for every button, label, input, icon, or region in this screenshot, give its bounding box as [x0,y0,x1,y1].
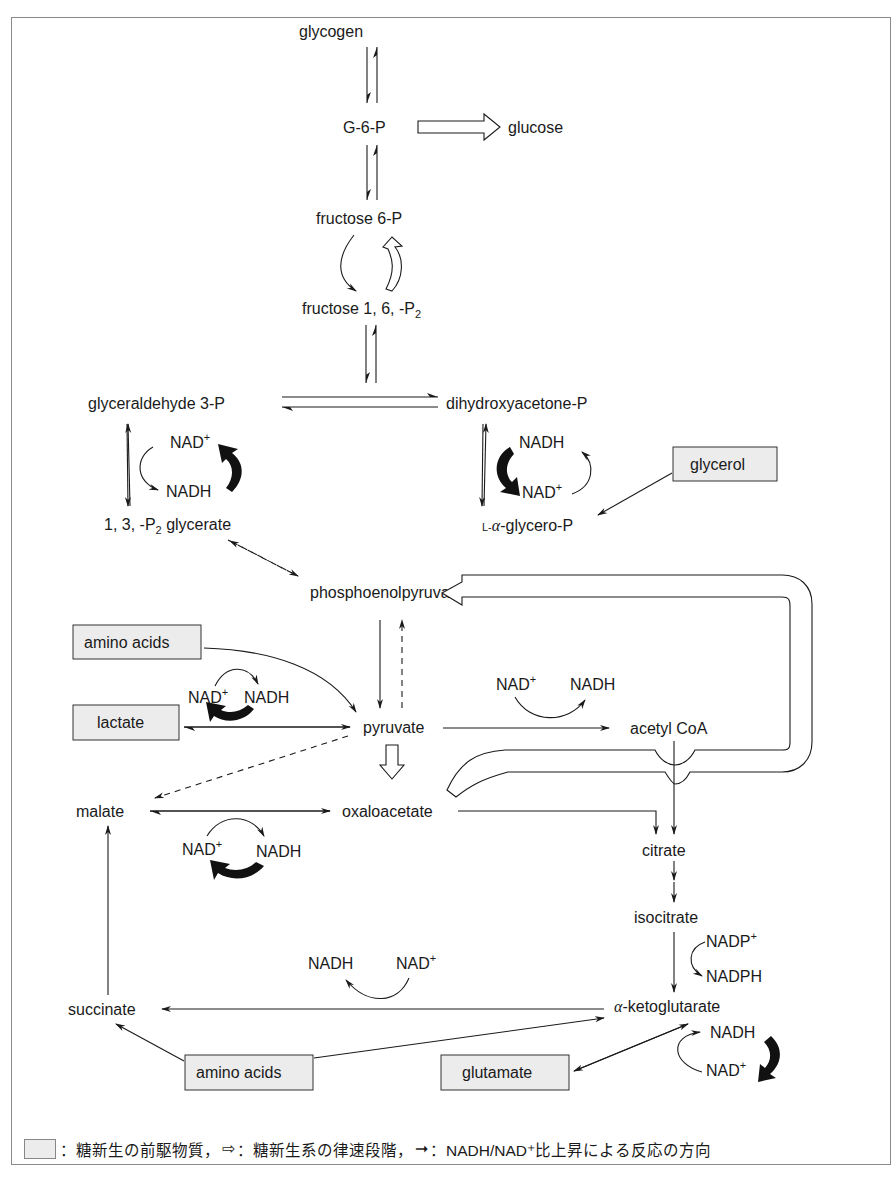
node-glycerol: glycerol [690,456,745,473]
legend-rate-limiting-symbol-icon: ⇨ [222,1140,235,1158]
legend-nadh-direction-arrow-icon: ➞ [415,1140,428,1158]
node-f6p: fructose 6-P [316,210,402,227]
thick-arrow-nadh-to-nad-1 [218,444,242,492]
arrow-nad-to-nadh-5 [207,819,264,836]
dashed-arrow-pyruvate-to-malate [155,736,348,798]
node-bpg: 1, 3, -P2 glycerate [104,516,231,536]
node-glucose: glucose [508,119,563,136]
cofactor-nadh-6: NADH [308,955,353,972]
node-glycogen: glycogen [299,23,363,40]
cofactor-nadh-1: NADH [166,483,211,500]
arrow-akg-to-glutamate [574,1024,688,1071]
arrow-nad-to-nadh-1 [140,447,158,490]
legend-rate-limiting-label: ：糖新生系の律速段階， [237,1138,413,1160]
cofactor-nad-4: NAD+ [496,673,536,693]
arrow-nad-to-nadh-2 [572,452,591,494]
node-akg: α-ketoglutarate [614,998,720,1015]
node-malate: malate [76,803,124,820]
node-citrate: citrate [642,842,686,859]
node-oxaloacetate: oxaloacetate [342,803,433,820]
node-g3p: glyceraldehyde 3-P [88,395,225,412]
arrow-f6p-to-f16p2 [341,235,356,291]
cofactor-nad-7: NAD+ [706,1059,746,1079]
cofactor-nad-1: NAD+ [170,431,210,451]
cofactor-nadh-3: NADH [244,689,289,706]
cofactor-nadph: NADPH [706,968,762,985]
node-glutamate: glutamate [462,1064,532,1081]
cofactor-nadh-4: NADH [570,676,615,693]
arrow-amino-acids-to-akg [314,1018,604,1058]
arrow-dhap-to-glycerop [482,424,483,506]
rate-limiting-arrow-pyruvate-to-oaa [380,745,404,779]
arrow-amino-acids-to-succinate [116,1024,184,1061]
arrow-glycerol-to-glycerop [598,473,672,515]
cofactor-nadh-5: NADH [256,843,301,860]
node-f16p2: fructose 1, 6, -P2 [302,300,421,320]
node-pep: phosphoenolpyruvate [310,584,463,601]
node-amino-acids-bottom: amino acids [196,1064,281,1081]
legend: ：糖新生の前駆物質， ⇨ ：糖新生系の律速段階， ➞ ：NADH/NAD⁺比上昇… [24,1138,713,1160]
node-acetyl-coa: acetyl CoA [630,720,708,737]
arrow-nad-to-nadh-7 [678,1032,702,1072]
arrow-glycerop-to-dhap [484,424,486,506]
node-lactate: lactate [97,714,144,731]
cofactor-nadh-2: NADH [519,434,564,451]
legend-precursor-label: ：糖新生の前駆物質， [60,1138,220,1160]
node-amino-acids-top: amino acids [84,634,169,651]
thick-arrow-nadh-to-nad-5 [210,860,264,880]
node-isocitrate: isocitrate [634,909,698,926]
legend-precursor-swatch [24,1139,56,1159]
metabolic-pathway-diagram: glycogen G-6-P glucose fructose 6-P fruc… [0,0,896,1182]
cofactor-nadh-7: NADH [710,1024,755,1041]
arrow-nad-to-nadh-4 [515,697,585,718]
arrow-nadp-to-nadph [691,942,705,976]
node-pyruvate: pyruvate [363,719,424,736]
cofactor-nad-6: NAD+ [396,952,436,972]
node-glycerop: L-α-glycero-P [482,517,573,534]
node-succinate: succinate [68,1001,136,1018]
cofactor-nad-2: NAD+ [522,481,562,501]
node-dhap: dihydroxyacetone-P [446,395,587,412]
node-g6p: G-6-P [343,119,386,136]
rate-limiting-arrow-f16p2-to-f6p [383,237,402,291]
arrow-nad-to-nadh-3 [215,669,258,686]
thick-arrow-nadh-to-nad-2 [497,447,520,496]
arrow-oaa-to-citrate [458,811,656,834]
legend-nadh-direction-label: ：NADH/NAD⁺比上昇による反応の方向 [430,1138,711,1160]
cofactor-nad-5: NAD+ [182,838,222,858]
rate-limiting-arrow-g6p-glucose [418,114,500,140]
arrow-nad-to-nadh-6 [346,978,409,999]
thick-arrow-nadh-to-nad-7 [758,1036,780,1082]
cofactor-nadp: NADP+ [706,930,757,950]
